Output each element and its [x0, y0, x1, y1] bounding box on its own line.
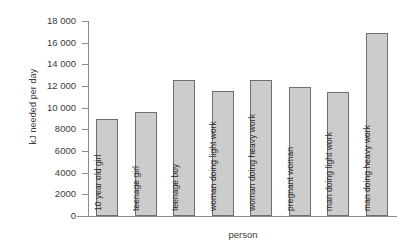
bar-group: man doing heavy work — [366, 21, 388, 216]
bar-category-label: teenage boy — [171, 164, 180, 211]
y-tick-label: 0 — [22, 211, 76, 221]
bar: teenage girl — [135, 112, 157, 216]
bar-category-label: woman doing light work — [209, 121, 218, 211]
bar-group: man doing light work — [327, 21, 349, 216]
bar-group: pregnant woman — [289, 21, 311, 216]
y-tick-label: 18 000 — [22, 16, 76, 26]
x-axis-line — [77, 216, 397, 217]
y-tick-label: 10 000 — [22, 103, 76, 113]
bar: 10 year old girl — [96, 119, 118, 217]
bar: woman doing heavy work — [250, 80, 272, 217]
bar: pregnant woman — [289, 87, 311, 216]
bar-group: 10 year old girl — [96, 21, 118, 216]
plot-area: 10 year old girlteenage girlteenage boyw… — [89, 21, 397, 216]
bar: man doing light work — [327, 92, 349, 216]
y-axis-tick-labels: 18 00016 00014 00012 00010 0008000600040… — [22, 21, 76, 216]
bar-group: woman doing light work — [212, 21, 234, 216]
bar-group: teenage boy — [173, 21, 195, 216]
y-tick-label: 16 000 — [22, 38, 76, 48]
y-tick-label: 6000 — [22, 146, 76, 156]
y-tick-label: 4000 — [22, 168, 76, 178]
y-tick-label: 8000 — [22, 124, 76, 134]
bar-category-label: man doing light work — [325, 132, 334, 211]
y-tick-label: 2000 — [22, 189, 76, 199]
bar-category-label: man doing heavy work — [363, 125, 372, 211]
bar-category-label: 10 year old girl — [94, 154, 103, 211]
bar-group: teenage girl — [135, 21, 157, 216]
x-axis-title: person — [89, 229, 397, 240]
bar-group: woman doing heavy work — [250, 21, 272, 216]
bar: teenage boy — [173, 80, 195, 217]
bar-category-label: woman doing heavy work — [248, 114, 257, 211]
bar-category-label: teenage girl — [132, 166, 141, 211]
bar-chart: kJ needed per day 18 00016 00014 00012 0… — [0, 0, 403, 250]
bar: man doing heavy work — [366, 33, 388, 216]
bar: woman doing light work — [212, 91, 234, 216]
bar-category-label: pregnant woman — [286, 147, 295, 211]
y-tick-label: 14 000 — [22, 59, 76, 69]
y-tick-label: 12 000 — [22, 81, 76, 91]
